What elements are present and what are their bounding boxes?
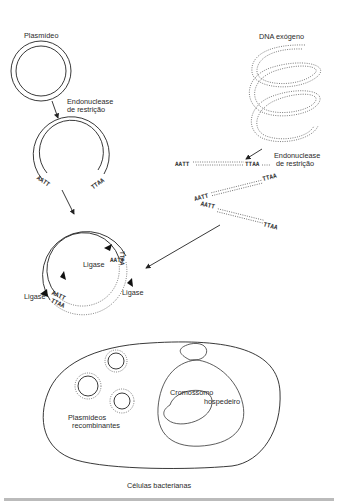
ligase-label-right: Ligase <box>122 288 144 297</box>
fragment3-left-seq: AATT <box>200 200 216 210</box>
cut-left-sequence: AATT <box>36 174 52 188</box>
fragment1-right-seq: TTAA <box>245 160 260 167</box>
exogenous-dna-label: DNA exógeno <box>259 32 304 41</box>
plasmid-label: Plasmídeo <box>24 31 58 40</box>
arrow-cut-to-ligated <box>62 190 74 214</box>
exogenous-dna-coil: DNA exógeno <box>249 32 320 142</box>
arrow-fragment-to-ligated <box>146 225 220 268</box>
endonuclease-right-label-2: de restrição <box>276 159 314 168</box>
chromosome-label-1: Cromossomo <box>170 388 213 397</box>
fragment1-left-seq: AATT <box>175 160 190 167</box>
dna-fragment-1: AATT TTAA <box>175 160 270 167</box>
ligase-label-top: Ligase <box>83 260 105 269</box>
cut-plasmid: AATT TTAA <box>33 117 109 191</box>
dna-fragment-2: AATT TTAA <box>193 171 279 201</box>
intact-plasmid: Plasmídeo <box>11 31 71 101</box>
chromosome-label-2: hospedeiro <box>204 397 240 406</box>
arrow-plasmid-to-cut <box>52 101 58 118</box>
svg-text:AATT: AATT <box>110 256 125 263</box>
endonuclease-left-label-2: de restrição <box>67 105 105 114</box>
arrow-dna-to-fragments <box>246 149 262 159</box>
ligase-label-left: Ligase <box>24 292 46 301</box>
recombinant-dna-diagram: Plasmídeo Endonuclease de restrição AATT… <box>0 0 339 501</box>
bacterial-cells-label: Células bacterianas <box>127 481 191 490</box>
ligase-wedge-center <box>60 271 66 280</box>
ligase-wedge-right <box>127 278 133 287</box>
dna-fragment-3: AATT TTAA <box>199 200 280 231</box>
recombinant-label-2: recombinantes <box>72 421 120 430</box>
cut-right-sequence: TTAA <box>89 176 105 190</box>
ligated-plasmid: TTAA AATT AATT TTAA Ligase Ligase Ligase <box>24 232 144 315</box>
ligase-wedge-top <box>104 244 112 251</box>
bacterial-cell: Cromossomo hospedeiro Plasmídeos recombi… <box>43 342 280 469</box>
fragment3-right-seq: TTAA <box>263 220 279 230</box>
fragment2-right-seq: TTAA <box>262 171 278 181</box>
